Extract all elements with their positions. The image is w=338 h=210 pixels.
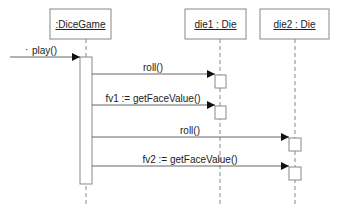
activation-die1-roll (215, 75, 226, 88)
activation-die2-roll (289, 138, 301, 151)
message-getfacevalue-die2: fv2 := getFaceValue() (92, 154, 289, 166)
message-marker: · (25, 44, 28, 55)
participant-label: die2 : Die (273, 19, 316, 30)
participant-label: die1 : Die (194, 19, 237, 30)
message-label: roll() (143, 62, 163, 73)
message-label: fv1 := getFaceValue() (105, 93, 200, 104)
activation-dicegame (80, 57, 92, 184)
participant-die1: die1 : Die (185, 9, 246, 39)
message-label: play() (32, 45, 57, 56)
participant-die2: die2 : Die (260, 9, 329, 39)
message-label: roll() (180, 125, 200, 136)
message-label: fv2 := getFaceValue() (142, 154, 237, 165)
message-roll-die2: roll() (92, 125, 289, 137)
message-roll-die1: roll() (92, 62, 215, 74)
activation-die2-getfacevalue (289, 167, 301, 180)
participant-label: :DiceGame (55, 19, 105, 30)
sequence-diagram: :DiceGame die1 : Die die2 : Die · play()… (0, 0, 338, 210)
activation-die1-getfacevalue (215, 106, 226, 119)
message-play: · play() (10, 44, 80, 57)
message-getfacevalue-die1: fv1 := getFaceValue() (92, 93, 215, 105)
participant-dicegame: :DiceGame (50, 9, 111, 39)
